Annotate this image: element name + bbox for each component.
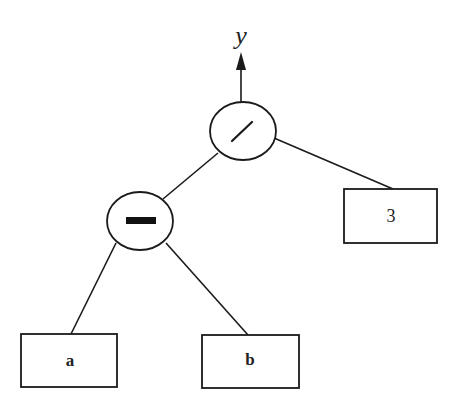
node-operand-a: a xyxy=(21,334,117,387)
node-operand-b: b xyxy=(202,335,299,388)
node-subtraction-operator xyxy=(107,192,173,250)
edge-div-to-sub xyxy=(163,153,218,199)
output-arrow xyxy=(236,52,246,102)
arrow-up-icon xyxy=(236,52,246,70)
minus-bar-icon xyxy=(126,217,156,224)
node-operand-3: 3 xyxy=(344,189,437,243)
edge-div-to-three xyxy=(274,138,393,189)
edge-sub-to-b xyxy=(166,243,248,335)
expression-tree-diagram: y 3 a b xyxy=(0,0,464,410)
output-label-y: y xyxy=(232,21,247,50)
node-division-operator xyxy=(210,102,276,160)
operand-label: a xyxy=(66,351,75,370)
edge-sub-to-a xyxy=(71,243,116,334)
operand-label: b xyxy=(245,350,254,369)
operand-label: 3 xyxy=(387,206,396,226)
